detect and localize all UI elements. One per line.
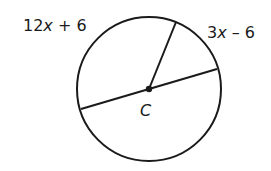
center-label: C [140,101,152,120]
radius [149,22,176,89]
right-arc-label: 3x – 6 [207,23,255,42]
circle-diagram: 12x + 6 3x – 6 C [0,0,271,171]
center-point [146,86,152,92]
left-arc-label: 12x + 6 [23,16,87,35]
